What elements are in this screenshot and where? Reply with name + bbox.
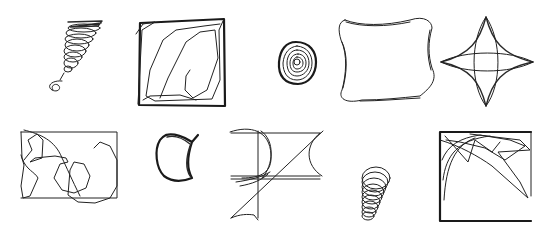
square-with-corner-fan-sketch xyxy=(440,132,531,221)
four-point-star-sketch xyxy=(441,17,533,106)
thick-crescent-cup-sketch xyxy=(157,134,198,180)
concentric-spiral-blob-sketch xyxy=(279,42,316,84)
geometric-construction-sketch xyxy=(230,129,323,220)
wavy-rounded-square-sketch xyxy=(339,18,434,101)
vertical-coil-sketch xyxy=(362,167,390,220)
sketch-grid xyxy=(0,0,554,236)
scribbled-square-sketch xyxy=(136,19,225,106)
rectangle-with-loops-sketch xyxy=(21,130,117,203)
tornado-spiral-sketch xyxy=(50,21,102,91)
